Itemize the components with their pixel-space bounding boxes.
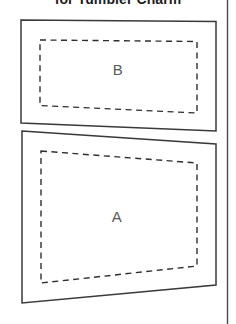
piece-a-label: A <box>112 208 123 225</box>
pattern-piece-b: B <box>21 20 216 131</box>
pattern-diagram: B A <box>0 0 236 324</box>
pattern-page: for Tumbler Charm B A <box>0 0 236 324</box>
piece-b-label: B <box>113 61 124 78</box>
pattern-piece-a: A <box>22 131 216 303</box>
